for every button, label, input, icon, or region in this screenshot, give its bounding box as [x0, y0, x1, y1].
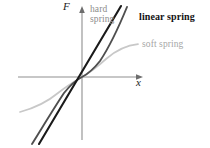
x-axis-label: x	[136, 77, 141, 89]
hard-spring-label: hard spring	[90, 5, 114, 25]
hard-spring-label-line2: spring	[90, 15, 114, 25]
linear-spring-label: linear spring	[139, 12, 195, 23]
hard-spring-label-line1: hard	[90, 4, 107, 14]
y-axis-label: F	[63, 1, 70, 13]
soft-spring-label: soft spring	[142, 40, 183, 50]
linear-spring-curve	[39, 6, 121, 144]
spring-force-displacement-figure: F x hard spring linear spring soft sprin…	[0, 0, 210, 148]
